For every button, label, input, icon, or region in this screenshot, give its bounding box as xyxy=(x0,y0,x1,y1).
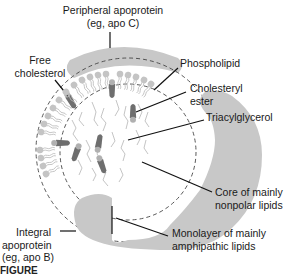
label-free-cholesterol: Free cholesterol xyxy=(12,54,68,79)
label-line: ester xyxy=(190,95,243,108)
label-line: apoprotein xyxy=(2,239,60,252)
label-line: Integral xyxy=(2,226,60,239)
label-cholesteryl-ester: Cholesteryl ester xyxy=(190,82,243,107)
label-line: Free xyxy=(12,54,68,67)
label-phospholipid: Phospholipid xyxy=(180,57,240,70)
label-line: Core of mainly xyxy=(215,186,283,199)
label-triacylglycerol: Triacylglycerol xyxy=(206,111,273,124)
label-integral-apoprotein: Integral apoprotein (eg, apo B) xyxy=(2,226,60,264)
label-peripheral-apoprotein: Peripheral apoprotein (eg, apo C) xyxy=(58,4,168,29)
label-line: Cholesteryl xyxy=(190,82,243,95)
core-lipids xyxy=(72,100,149,186)
figure-caption: FIGURE xyxy=(0,265,38,276)
label-monolayer: Monolayer of mainly amphipathic lipids xyxy=(172,227,266,252)
peripheral-apoprotein-shape xyxy=(67,47,182,78)
phospholipid-ring xyxy=(36,70,155,178)
label-line: Peripheral apoprotein xyxy=(58,4,168,17)
label-line: Monolayer of mainly xyxy=(172,227,266,240)
label-line: Triacylglycerol xyxy=(206,111,273,124)
label-line: (eg, apo C) xyxy=(58,17,168,30)
label-core: Core of mainly nonpolar lipids xyxy=(215,186,283,211)
label-line: (eg, apo B) xyxy=(2,251,60,264)
label-line: Phospholipid xyxy=(180,57,240,70)
label-line: amphipathic lipids xyxy=(172,240,266,253)
label-line: nonpolar lipids xyxy=(215,199,283,212)
label-line: cholesterol xyxy=(12,67,68,80)
